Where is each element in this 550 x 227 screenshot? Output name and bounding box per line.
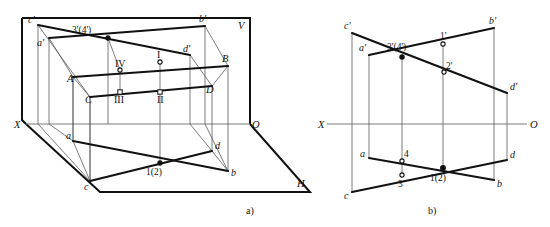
label-3-projection: 3 bbox=[398, 179, 403, 189]
label-4-projection: 4 bbox=[404, 149, 409, 159]
marker-12-proj bbox=[441, 166, 446, 171]
label-point-II: II bbox=[157, 94, 164, 105]
marker-point-12 bbox=[158, 161, 162, 165]
front-view-segments bbox=[352, 28, 507, 93]
label-12-projection: 1(2) bbox=[430, 173, 446, 184]
box-edge-DB bbox=[212, 66, 228, 86]
label-34prime-pictorial: 3'(4') bbox=[72, 25, 91, 36]
label-axis-o-pictorial: O bbox=[252, 119, 260, 130]
label-12-pictorial: 1(2) bbox=[146, 167, 162, 178]
construction-lines-pictorial bbox=[38, 25, 228, 181]
marker-1prime-proj bbox=[441, 42, 445, 46]
marker-point-I bbox=[158, 60, 162, 64]
link-dprime-D bbox=[190, 55, 212, 86]
label-point-D: D bbox=[205, 84, 214, 95]
label-point-I: I bbox=[157, 49, 160, 60]
label-b-prime-projection: b' bbox=[489, 15, 497, 26]
label-h-plane: H bbox=[296, 178, 306, 189]
label-c-prime-projection: c' bbox=[344, 20, 351, 31]
label-34prime-projection: 3'(4') bbox=[387, 42, 406, 53]
label-point-IV: IV bbox=[115, 58, 126, 69]
marker-4-proj bbox=[400, 159, 404, 163]
label-point-III: III bbox=[114, 94, 124, 105]
caption-a: a) bbox=[246, 205, 254, 217]
recede-c bbox=[38, 124, 90, 181]
technical-drawing-svg: V H X O c' a' b' d' 3'(4') A B C D I II … bbox=[0, 0, 550, 227]
recede-d bbox=[190, 124, 212, 151]
marker-34prime-proj bbox=[400, 55, 404, 59]
label-2prime-projection: 2' bbox=[446, 61, 453, 71]
label-v-plane: V bbox=[238, 20, 246, 31]
label-a-pictorial: a bbox=[66, 130, 71, 141]
caption-b: b) bbox=[428, 205, 436, 217]
label-d-projection: d bbox=[510, 149, 516, 160]
projection-figure-b: X O c' a' b' d' 3'(4') 1' 2' a b c d 4 3… bbox=[317, 15, 538, 217]
label-c-pictorial: c bbox=[84, 181, 89, 192]
label-b-projection: b bbox=[497, 178, 502, 189]
label-point-C: C bbox=[85, 94, 93, 105]
marker-point-34prime bbox=[106, 36, 110, 40]
label-d-pictorial: d bbox=[215, 140, 221, 151]
figure-root: V H X O c' a' b' d' 3'(4') A B C D I II … bbox=[0, 0, 550, 227]
label-a-prime-projection: a' bbox=[359, 42, 367, 53]
label-point-A: A bbox=[66, 73, 74, 84]
label-1prime-projection: 1' bbox=[440, 31, 447, 41]
label-b-pictorial: b bbox=[231, 167, 236, 178]
label-a-projection: a bbox=[360, 148, 365, 159]
marker-3-proj bbox=[400, 173, 404, 177]
space-segments-pictorial bbox=[38, 25, 228, 181]
label-d-prime-projection: d' bbox=[510, 81, 518, 92]
label-axis-x-pictorial: X bbox=[13, 119, 21, 130]
label-c-projection: c bbox=[344, 190, 349, 201]
pictorial-figure-a: V H X O c' a' b' d' 3'(4') A B C D I II … bbox=[13, 13, 310, 217]
label-c-prime-pictorial: c' bbox=[28, 14, 35, 25]
label-point-B: B bbox=[222, 53, 229, 64]
label-axis-x-projection: X bbox=[317, 119, 325, 130]
v-plane-left-edge bbox=[22, 18, 26, 124]
v-plane-frame bbox=[22, 18, 250, 124]
label-b-prime-pictorial: b' bbox=[199, 13, 207, 24]
label-axis-o-projection: O bbox=[530, 119, 538, 130]
label-d-prime-pictorial: d' bbox=[183, 43, 191, 54]
label-a-prime-pictorial: a' bbox=[37, 37, 45, 48]
